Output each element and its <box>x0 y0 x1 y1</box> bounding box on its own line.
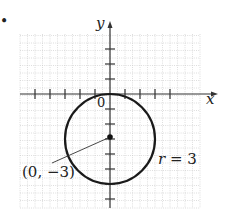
bullet-marker: • <box>0 13 8 29</box>
circle-graph-figure: • x y 0 (0, −3) r = 3 <box>0 0 225 212</box>
center-label: (0, −3) <box>22 163 75 181</box>
center-leader-line <box>52 138 108 163</box>
radius-label: r = 3 <box>158 150 197 168</box>
y-axis-arrow-icon <box>108 21 113 28</box>
center-point <box>107 134 113 140</box>
x-axis-label: x <box>206 90 215 108</box>
y-axis-label: y <box>95 14 105 32</box>
origin-label: 0 <box>97 95 105 110</box>
